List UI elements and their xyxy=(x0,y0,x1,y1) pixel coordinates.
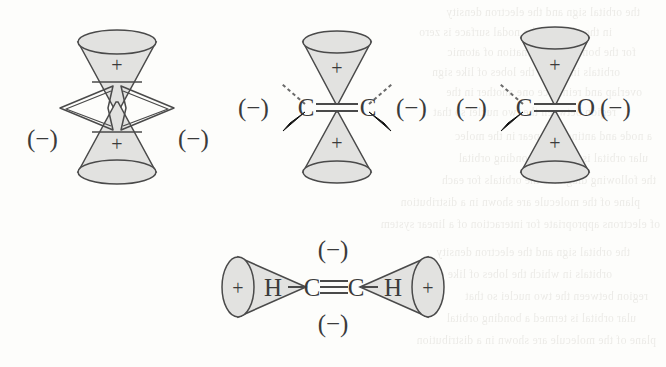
structure-3-top-lobe-rim xyxy=(521,27,589,49)
structure-1-left-charge: (−) xyxy=(27,125,58,153)
structure-4-group: H C C H + + (−) (−) xyxy=(222,236,444,338)
structure-1-top-sign: + xyxy=(111,54,122,76)
structure-1-group: + + (−) (−) xyxy=(27,30,209,184)
structure-3-bottom-lobe-rim xyxy=(521,161,589,183)
structure-2-group: C C + + (−) (−) xyxy=(238,31,427,183)
structure-4-atom-c-left: C xyxy=(304,274,321,301)
structure-4-top-charge: (−) xyxy=(318,236,349,264)
structure-4-atom-h-right: H xyxy=(384,274,402,301)
structure-1-right-charge: (−) xyxy=(178,125,209,153)
structure-3-atom-left: C xyxy=(516,94,533,121)
structure-4-right-sign: + xyxy=(422,277,433,299)
structure-1-bottom-sign: + xyxy=(111,133,122,155)
structure-2-atom-right: C xyxy=(360,94,377,121)
structure-2-bottom-lobe-rim xyxy=(303,161,371,183)
structure-4-atom-c-right: C xyxy=(348,274,365,301)
structure-3-group: C O + + (−) (−) xyxy=(456,27,631,183)
figure-root: the orbital sign and the electron densit… xyxy=(0,0,666,367)
structure-2-left-charge: (−) xyxy=(238,94,269,122)
structure-1-bottom-lobe-rim xyxy=(78,160,156,184)
structure-3-top-sign: + xyxy=(549,54,560,76)
structure-2-right-charge: (−) xyxy=(396,94,427,122)
structure-3-left-charge: (−) xyxy=(456,94,487,122)
structure-4-left-sign: + xyxy=(232,277,243,299)
structure-3-right-charge: (−) xyxy=(600,94,631,122)
structure-2-bottom-sign: + xyxy=(331,132,342,154)
structure-3-bottom-sign: + xyxy=(549,132,560,154)
structure-1-top-lobe-rim xyxy=(78,30,156,54)
structure-2-top-sign: + xyxy=(331,57,342,79)
structure-3-atom-right: O xyxy=(577,94,595,121)
structure-2-top-lobe-rim xyxy=(303,31,371,53)
structure-2-atom-left: C xyxy=(298,94,315,121)
structure-4-atom-h-left: H xyxy=(264,274,282,301)
orbital-diagram-svg: + + (−) (−) C C + + (− xyxy=(0,0,666,367)
structure-4-bottom-charge: (−) xyxy=(318,310,349,338)
